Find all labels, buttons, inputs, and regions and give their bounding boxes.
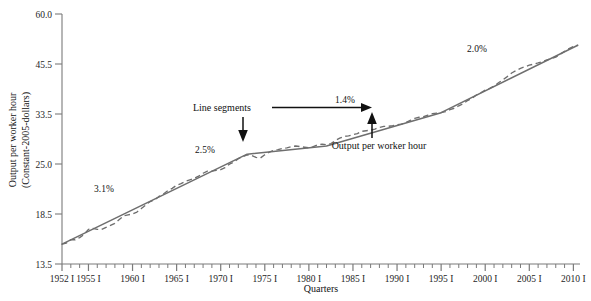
series-output-per-worker-hour <box>62 45 578 244</box>
line-segments-arrowhead-down <box>238 130 248 142</box>
y-tick-label-2: 33.5 <box>35 110 52 120</box>
y-axis-title-line1: Output per worker hour <box>7 92 18 187</box>
axis-lines <box>62 14 580 264</box>
x-tick-label-1952: 1952 I <box>50 274 75 284</box>
x-tick-label-1960: 1960 I <box>120 274 145 284</box>
line-segments-annotation: Line segments <box>193 102 372 142</box>
y-axis-title-line2: (Constant-2005-dollars) <box>20 92 32 188</box>
y-tick-label-1: 45.5 <box>35 60 52 70</box>
output-per-worker-hour-annotation: Output per worker hour <box>332 112 427 151</box>
x-tick-label-1995: 1995 I <box>429 274 454 284</box>
growth-rate-label-2-5: 2.5% <box>195 145 215 155</box>
x-tick-label-1990: 1990 I <box>385 274 410 284</box>
y-tick-label-5: 13.5 <box>35 260 52 270</box>
x-tick-label-1970: 1970 I <box>208 274 233 284</box>
x-tick-label-2010: 2010 I <box>561 274 586 284</box>
growth-rate-label-1-4: 1.4% <box>335 95 355 105</box>
x-tick-label-1985: 1985 I <box>341 274 366 284</box>
growth-rate-labels: 3.1% 2.5% 1.4% 2.0% <box>94 44 487 194</box>
x-axis-title: Quarters <box>304 283 339 294</box>
y-axis-tick-labels: 60.0 45.5 33.5 25.0 18.5 13.5 <box>35 10 52 270</box>
y-axis-ticks <box>55 14 62 264</box>
productivity-line-chart: 60.0 45.5 33.5 25.0 18.5 13.5 Output per… <box>0 0 591 301</box>
x-tick-label-1955: 1955 I <box>76 274 101 284</box>
x-axis-ticks <box>62 264 573 271</box>
x-tick-label-1965: 1965 I <box>164 274 189 284</box>
line-segments-label: Line segments <box>193 102 251 113</box>
output-per-worker-hour-arrowhead-up <box>367 112 377 124</box>
y-axis-title: Output per worker hour (Constant-2005-do… <box>7 92 32 188</box>
growth-rate-label-2-0: 2.0% <box>467 44 487 54</box>
x-tick-label-1975: 1975 I <box>253 274 278 284</box>
y-tick-label-4: 18.5 <box>35 210 52 220</box>
output-per-worker-hour-label: Output per worker hour <box>332 140 427 151</box>
chart-figure: 60.0 45.5 33.5 25.0 18.5 13.5 Output per… <box>0 0 591 301</box>
line-segments-arrowhead-right <box>361 103 372 112</box>
y-tick-label-3: 25.0 <box>35 160 52 170</box>
growth-rate-label-3-1: 3.1% <box>94 184 114 194</box>
y-tick-label-0: 60.0 <box>35 10 52 20</box>
series-line-segments <box>62 45 578 244</box>
x-tick-label-2005: 2005 I <box>517 274 542 284</box>
x-tick-label-2000: 2000 I <box>473 274 498 284</box>
